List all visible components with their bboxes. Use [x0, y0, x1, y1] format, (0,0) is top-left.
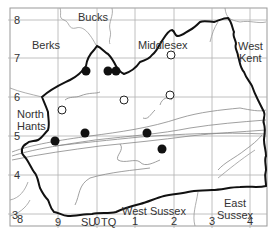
open-record-dot	[120, 96, 128, 104]
x-tick-2: 2	[171, 216, 177, 227]
region-label-berks: Berks	[32, 39, 60, 51]
y-tick-4: 4	[14, 170, 20, 181]
region-label-west-kent-2: Kent	[239, 52, 262, 64]
x-tick-4: 4	[247, 216, 253, 227]
open-record-dot	[167, 51, 175, 59]
region-label-east-sussex-1: East	[224, 197, 246, 209]
open-record-dot	[58, 106, 66, 114]
y-tick-5: 5	[14, 131, 20, 142]
filled-record-dot	[104, 67, 113, 76]
region-label-middlesex: Middlesex	[138, 39, 188, 51]
region-label-bucks: Bucks	[78, 11, 108, 23]
y-tick-6: 6	[14, 92, 20, 103]
filled-record-dot	[81, 129, 90, 138]
x-tick-9: 9	[55, 217, 61, 228]
x-tick-8: 8	[17, 214, 23, 225]
filled-record-dot	[158, 145, 167, 154]
open-record-dot	[166, 91, 174, 99]
region-label-north-hants-1: North	[17, 108, 44, 120]
x-tick-0: 0	[94, 216, 100, 227]
filled-record-dot	[51, 137, 60, 146]
filled-record-dot	[82, 67, 91, 76]
x-tick-3: 3	[209, 216, 215, 227]
region-label-north-hants-2: Hants	[17, 120, 46, 132]
y-tick-7: 7	[14, 53, 20, 64]
x-tick-1: 1	[132, 216, 138, 227]
distribution-map: Bucks Berks Middlesex West Kent North Ha…	[0, 0, 277, 235]
filled-record-dot	[143, 129, 152, 138]
filled-record-dot	[112, 67, 121, 76]
y-tick-8: 8	[14, 15, 20, 26]
region-label-west-kent-1: West	[238, 40, 263, 52]
grid-ref-tq: TQ	[101, 217, 116, 228]
